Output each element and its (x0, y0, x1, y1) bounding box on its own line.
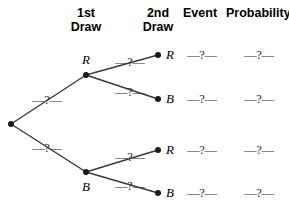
node-first-draw-r (83, 72, 89, 78)
event-blank-row3: —?— (187, 143, 217, 158)
branch-label-root-to-r: —?— (32, 93, 62, 108)
leaf-label-r1: R (166, 47, 174, 63)
branch-label-b-to-b: —?— (115, 179, 145, 194)
branch-label-r-to-r: —?— (115, 55, 145, 70)
branch-label-b-to-r: —?— (115, 150, 145, 165)
node-first-draw-b (83, 169, 89, 175)
probability-blank-row4: —?— (244, 186, 274, 201)
probability-blank-row2: —?— (244, 92, 274, 107)
node-second-draw-b1 (155, 96, 161, 102)
branch-label-root-to-b: —?— (32, 141, 62, 156)
event-blank-row1: —?— (187, 48, 217, 63)
node-label-first-draw-b: B (82, 179, 90, 195)
leaf-label-b1: B (166, 91, 174, 107)
node-label-first-draw-r: R (82, 52, 90, 68)
branch-label-r-to-b: —?— (115, 85, 145, 100)
node-root (8, 121, 14, 127)
node-second-draw-b2 (155, 190, 161, 196)
event-blank-row2: —?— (187, 92, 217, 107)
node-second-draw-r2 (155, 147, 161, 153)
leaf-label-r2: R (166, 142, 174, 158)
probability-blank-row1: —?— (244, 48, 274, 63)
node-second-draw-r1 (155, 52, 161, 58)
event-blank-row4: —?— (187, 186, 217, 201)
leaf-label-b2: B (166, 185, 174, 201)
probability-blank-row3: —?— (244, 143, 274, 158)
probability-tree-diagram: 1st Draw 2nd Draw Event Probability R B … (0, 0, 289, 214)
